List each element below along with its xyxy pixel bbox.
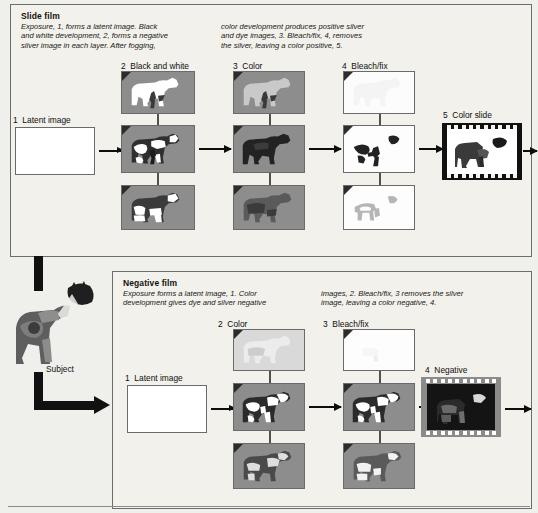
negative-step-4-label: 4 Negative	[425, 365, 467, 375]
slide-step-4-number: 4	[342, 61, 347, 71]
slide-film-description-col2: color development produces positive silv…	[221, 22, 431, 50]
negative-step-1-text: Latent image	[134, 373, 182, 383]
slide-bw-layer-middle	[121, 125, 195, 173]
negative-filmstrip-sprockets-top	[426, 379, 496, 383]
slide-step-5-text: Color slide	[452, 110, 492, 120]
subject-horse-icon	[8, 268, 108, 378]
negative-bleach-layer-top	[343, 329, 415, 371]
slide-color-layer-middle-corner-icon	[234, 126, 243, 135]
bottom-rule	[8, 506, 530, 507]
negative-film-description-col2: images, 2. Bleach/fix, 3 removes the sil…	[321, 289, 526, 308]
slide-step-5-number: 5	[443, 110, 448, 120]
slide-step-5-label: 5 Color slide	[443, 110, 492, 120]
negative-step-3-text: Bleach/fix	[332, 319, 368, 329]
negative-frame	[427, 384, 495, 430]
negative-col2-connector-top	[269, 371, 271, 383]
slide-bw-layer-bottom	[121, 185, 195, 230]
slide-col2-connector-top	[157, 113, 159, 125]
negative-latent-image-box	[127, 385, 207, 433]
slide-step-3-text: Color	[242, 61, 262, 71]
negative-step-4-text: Negative	[434, 365, 467, 375]
subject-path-horizontal	[34, 401, 96, 410]
negative-color-layer-middle	[233, 383, 305, 431]
color-slide-frame	[447, 129, 517, 174]
negative-film-description-col1: Exposure forms a latent image, 1. Color …	[123, 289, 313, 308]
negative-col2-connector-bottom	[269, 431, 271, 443]
slide-bw-layer-top	[121, 71, 195, 114]
negative-step-3-number: 3	[323, 319, 328, 329]
slide-step-4-label: 4 Bleach/fix	[342, 61, 388, 71]
slide-output-arrow	[523, 150, 537, 152]
subject-label: Subject	[46, 364, 74, 374]
slide-bleach-layer-top-corner-icon	[344, 72, 353, 81]
negative-step-2-number: 2	[218, 319, 223, 329]
slide-col3-connector-top	[269, 113, 271, 125]
slide-step-2-number: 2	[121, 61, 126, 71]
negative-color-layer-bottom	[233, 443, 305, 489]
diagram-root: Slide film Exposure, 1, forms a latent i…	[0, 0, 538, 513]
negative-step-2-label: 2 Color	[218, 319, 247, 329]
slide-color-layer-middle	[233, 125, 305, 173]
subject-path-vertical-top	[34, 256, 43, 291]
subject-figure: Subject	[8, 268, 108, 378]
negative-bleach-layer-top-corner-icon	[344, 330, 353, 339]
slide-step-1-label: 1 Latent image	[13, 115, 71, 125]
negative-step-3-label: 3 Bleach/fix	[323, 319, 369, 329]
slide-col2-connector-bottom	[157, 173, 159, 185]
slide-bw-layer-middle-corner-icon	[122, 126, 131, 135]
negative-col3-connector-top	[379, 371, 381, 383]
negative-bleach-layer-bottom	[343, 443, 415, 489]
negative-color-layer-middle-corner-icon	[234, 384, 243, 393]
negative-arrow-2-to-3	[309, 406, 341, 408]
filmstrip-sprockets-bottom	[447, 174, 517, 178]
slide-col4-connector-top	[379, 113, 381, 125]
slide-bleach-layer-top	[343, 71, 415, 114]
slide-film-panel: Slide film Exposure, 1, forms a latent i…	[10, 4, 532, 257]
negative-color-layer-bottom-corner-icon	[234, 444, 243, 453]
negative-bleach-layer-middle	[343, 383, 415, 431]
negative-step-4-number: 4	[425, 365, 430, 375]
negative-color-layer-top	[233, 329, 305, 371]
slide-latent-image-box	[15, 127, 95, 175]
slide-color-layer-bottom	[233, 185, 305, 230]
slide-color-layer-bottom-corner-icon	[234, 186, 243, 195]
negative-arrow-1-to-2	[211, 408, 235, 410]
slide-color-layer-top	[233, 71, 305, 114]
negative-filmstrip	[421, 377, 501, 437]
negative-bleach-layer-middle-corner-icon	[344, 384, 353, 393]
slide-step-1-text: Latent image	[22, 115, 70, 125]
negative-col3-connector-bottom	[379, 431, 381, 443]
slide-col4-connector-bottom	[379, 173, 381, 185]
color-slide-filmstrip	[442, 123, 522, 180]
slide-step-2-text: Black and white	[130, 61, 189, 71]
slide-film-description-col1: Exposure, 1, forms a latent image. Black…	[21, 22, 211, 50]
slide-col3-connector-bottom	[269, 173, 271, 185]
slide-step-4-text: Bleach/fix	[351, 61, 387, 71]
slide-arrow-4-to-5	[419, 148, 443, 150]
slide-arrow-3-to-4	[309, 148, 341, 150]
slide-bleach-layer-bottom	[343, 185, 415, 230]
slide-arrow-2-to-3	[199, 148, 231, 150]
subject-path-arrowhead	[94, 396, 110, 414]
slide-bleach-layer-bottom-corner-icon	[344, 186, 353, 195]
negative-step-1-number: 1	[125, 373, 130, 383]
negative-step-1-label: 1 Latent image	[125, 373, 183, 383]
negative-output-arrow	[505, 408, 531, 410]
slide-step-2-label: 2 Black and white	[121, 61, 189, 71]
negative-film-panel: Negative film Exposure forms a latent im…	[112, 271, 532, 509]
slide-bleach-layer-middle	[343, 125, 415, 173]
slide-bleach-layer-middle-corner-icon	[344, 126, 353, 135]
negative-filmstrip-sprockets-bottom	[426, 431, 496, 435]
negative-film-heading: Negative film	[123, 278, 177, 288]
negative-color-layer-top-corner-icon	[234, 330, 243, 339]
slide-film-heading: Slide film	[21, 11, 60, 21]
slide-step-3-label: 3 Color	[233, 61, 262, 71]
slide-arrow-1-to-2	[99, 150, 123, 152]
negative-step-2-text: Color	[227, 319, 247, 329]
slide-bw-layer-bottom-corner-icon	[122, 186, 131, 195]
slide-step-1-number: 1	[13, 115, 18, 125]
slide-bw-layer-top-corner-icon	[122, 72, 131, 81]
slide-step-3-number: 3	[233, 61, 238, 71]
negative-bleach-layer-bottom-corner-icon	[344, 444, 353, 453]
slide-color-layer-top-corner-icon	[234, 72, 243, 81]
